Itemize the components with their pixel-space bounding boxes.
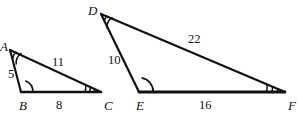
angle-mark-e: [142, 78, 154, 92]
vertex-label-b: B: [19, 99, 27, 112]
vertex-label-d: D: [88, 4, 97, 17]
triangles-svg: [0, 0, 301, 124]
vertex-label-c: C: [104, 99, 113, 112]
side-length-ac: 11: [52, 56, 64, 69]
vertex-label-f: F: [288, 99, 296, 112]
vertex-label-a: A: [0, 40, 8, 53]
triangle-def: [101, 14, 285, 92]
side-length-bc: 8: [56, 99, 62, 112]
angle-mark-b: [25, 81, 33, 92]
geometry-diagram: A B C D E F 5 11 8 10 22 16: [0, 0, 301, 124]
side-length-ab: 5: [8, 68, 14, 81]
side-length-de: 10: [108, 54, 121, 67]
vertex-label-e: E: [136, 99, 144, 112]
side-length-df: 22: [188, 33, 201, 46]
side-length-ef: 16: [199, 99, 212, 112]
segment-df: [101, 14, 285, 92]
